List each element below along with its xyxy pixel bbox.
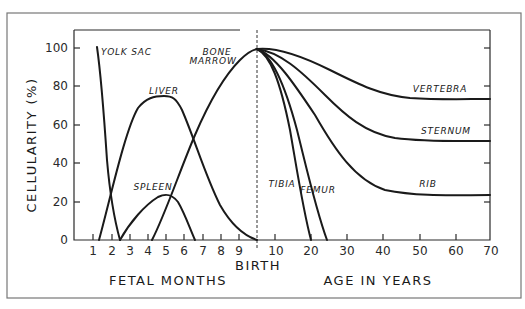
y-axis-title: CELLULARITY (%) (24, 78, 39, 213)
x-tick-age-70: 70 (483, 244, 498, 258)
x-axis-fetal-ticks (93, 234, 239, 240)
hematopoiesis-cellularity-chart: 0 20 40 60 80 100 1 2 3 4 5 6 7 8 9 (0, 0, 525, 309)
label-tibia: TIBIA (268, 179, 295, 189)
x-tick-month-4: 4 (144, 244, 152, 258)
x-tick-age-60: 60 (448, 244, 463, 258)
x-tick-month-8: 8 (217, 244, 225, 258)
y-tick-60: 60 (53, 118, 68, 132)
x-axis-fetal-tick-labels: 1 2 3 4 5 6 7 8 9 (89, 244, 243, 258)
label-rib: RIB (419, 179, 436, 189)
label-sternum: STERNUM (421, 126, 471, 136)
x-tick-month-3: 3 (126, 244, 134, 258)
x-axis-title-years: AGE IN YEARS (323, 273, 432, 288)
y-axis-tick-labels: 0 20 40 60 80 100 (45, 41, 68, 247)
y-tick-80: 80 (53, 79, 68, 93)
x-tick-month-9: 9 (235, 244, 243, 258)
y-tick-20: 20 (53, 195, 68, 209)
label-yolk-sac: YOLK SAC (101, 47, 152, 57)
x-tick-month-5: 5 (162, 244, 170, 258)
x-tick-age-10: 10 (268, 244, 283, 258)
x-tick-age-50: 50 (412, 244, 427, 258)
x-axis-title-fetal: FETAL MONTHS (109, 273, 227, 288)
birth-label: BIRTH (235, 258, 281, 273)
label-vertebra: VERTEBRA (413, 84, 467, 94)
curve-spleen (120, 195, 195, 240)
curve-bone-marrow (152, 49, 257, 240)
x-axis-years-tick-labels: 10 20 30 40 50 60 70 (268, 244, 498, 258)
y-axis-right-ticks (484, 48, 490, 202)
x-tick-age-30: 30 (339, 244, 354, 258)
y-axis-ticks (74, 48, 80, 202)
x-tick-age-40: 40 (375, 244, 390, 258)
label-spleen: SPLEEN (133, 182, 172, 192)
label-femur: FEMUR (300, 185, 335, 195)
x-axis-years-ticks (275, 234, 456, 240)
curve-yolk-sac (97, 47, 120, 240)
x-tick-age-20: 20 (303, 244, 318, 258)
curve-liver (99, 96, 257, 240)
y-tick-40: 40 (53, 156, 68, 170)
x-tick-month-7: 7 (199, 244, 207, 258)
label-liver: LIVER (149, 86, 179, 96)
curve-tibia (257, 49, 311, 240)
curve-rib (257, 49, 490, 195)
label-marrow: MARROW (189, 56, 237, 66)
x-tick-month-1: 1 (89, 244, 97, 258)
x-tick-month-6: 6 (180, 244, 188, 258)
y-tick-100: 100 (45, 41, 68, 55)
y-tick-0: 0 (60, 233, 68, 247)
x-tick-month-2: 2 (108, 244, 116, 258)
